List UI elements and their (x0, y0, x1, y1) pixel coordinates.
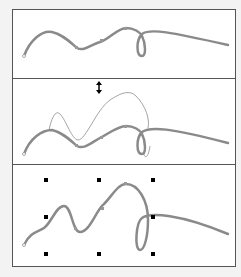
panel-3-curve (23, 182, 229, 250)
panel-2-curves (23, 93, 229, 157)
handle-top-center (97, 178, 101, 182)
handle-middle-left (44, 215, 48, 219)
handle-bottom-left (44, 252, 48, 256)
panel-1-curve (23, 27, 229, 58)
diagram-canvas (0, 0, 241, 277)
handle-bottom-center (97, 252, 101, 256)
handle-top-right (151, 178, 155, 182)
handle-middle-right (151, 215, 155, 219)
handle-bottom-right (151, 252, 155, 256)
handle-top-left (44, 178, 48, 182)
vertical-double-arrow-icon (96, 81, 102, 94)
